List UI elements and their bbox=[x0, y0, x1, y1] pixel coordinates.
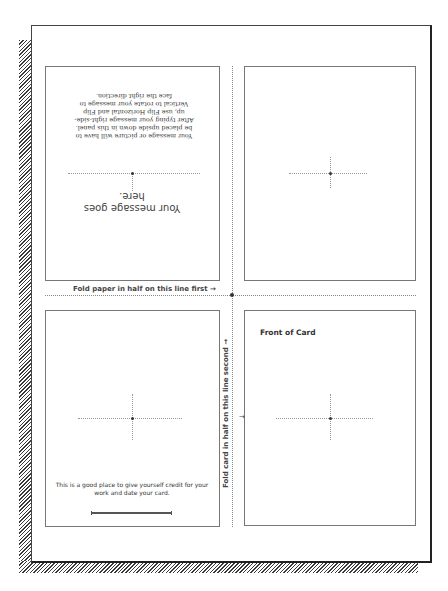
fold-center-mark bbox=[230, 293, 234, 297]
inside-message-text[interactable]: Your message goes here. bbox=[72, 190, 192, 214]
signature-line bbox=[91, 512, 172, 514]
upside-down-instructions: Your message or picture will have to be … bbox=[74, 92, 194, 140]
fold-first-label: Fold paper in half on this line first → bbox=[73, 285, 216, 293]
crosshair-horizontal bbox=[276, 418, 373, 419]
credit-text[interactable]: This is a good place to give yourself cr… bbox=[48, 481, 216, 497]
fold-second-label: Fold card in half on this line second → bbox=[222, 339, 230, 488]
crosshair-center-icon bbox=[131, 172, 134, 175]
crosshair-center-icon bbox=[329, 172, 332, 175]
front-of-card-title[interactable]: Front of Card bbox=[260, 328, 316, 337]
arrow-right-icon: → bbox=[239, 413, 245, 421]
crosshair-horizontal bbox=[289, 173, 367, 174]
crosshair-center-icon bbox=[131, 417, 134, 420]
crosshair-center-icon bbox=[329, 417, 332, 420]
crosshair-horizontal bbox=[68, 173, 200, 174]
crosshair-vertical bbox=[132, 173, 133, 191]
crosshair-horizontal bbox=[78, 418, 182, 419]
